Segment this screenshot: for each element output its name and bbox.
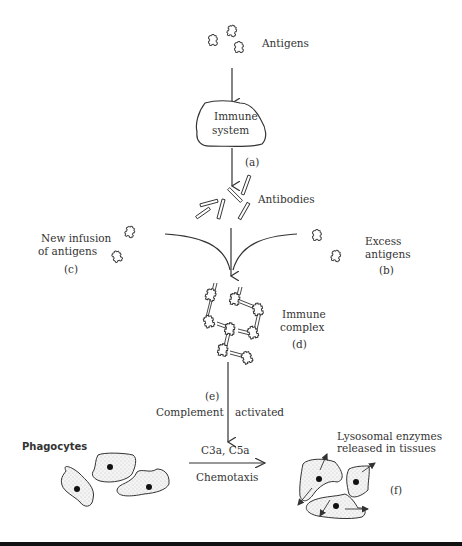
lysosomal-label-1: Lysosomal enzymes [337, 430, 442, 442]
lysosomal-release-group: Lysosomal enzymes released in tissues (f… [298, 430, 442, 519]
step-a-label: (a) [245, 156, 259, 168]
immune-complex-diagram: Antigens Immune system (a) Antibodies Ne… [0, 0, 462, 546]
lysosomal-label-2: released in tissues [337, 442, 436, 454]
antigen-icon [203, 314, 215, 328]
antigen-icon [252, 302, 264, 315]
antigens-group: Antigens [209, 24, 310, 52]
immune-complex-label-2: complex [280, 321, 324, 333]
converge-right-line [233, 234, 297, 270]
new-infusion-label-1: New infusion [41, 232, 112, 244]
excess-antigens-node: Excess antigens (b) [313, 230, 411, 277]
step-b-label: (b) [379, 264, 394, 276]
new-infusion-node: New infusion of antigens (c) [38, 225, 136, 275]
step-e-label: (e) [205, 390, 219, 402]
antigen-icon [209, 35, 218, 46]
immune-system-node: Immune system [196, 101, 265, 147]
complement-label: Complement [156, 406, 225, 418]
step-c-label: (c) [64, 263, 78, 275]
phagocytes-group: Phagocytes [22, 441, 169, 506]
phagocytes-label: Phagocytes [22, 441, 87, 452]
step-f-label: (f) [390, 484, 402, 496]
antigen-icon [240, 350, 253, 365]
antigen-icon [226, 24, 237, 37]
antigen-icon [330, 249, 341, 262]
antigen-icon [229, 292, 241, 305]
immune-system-label-2: system [212, 124, 249, 136]
phagocyte-cell [92, 453, 135, 482]
immune-complex-label-1: Immune [282, 308, 326, 320]
antigen-icon [124, 225, 136, 238]
antigen-icon [111, 250, 123, 263]
immune-system-label-1: Immune [214, 110, 258, 122]
excess-label-2: antigens [365, 248, 411, 260]
antibodies-group: Antibodies [196, 175, 315, 219]
immune-complex-node: Immune complex (d) [203, 283, 326, 365]
step-d-label: (d) [292, 338, 307, 350]
antigens-label: Antigens [261, 37, 309, 49]
converge-left-line [165, 234, 230, 270]
c3a-c5a-label: C3a, C5a [201, 444, 250, 456]
excess-label-1: Excess [365, 235, 401, 247]
antigen-icon [224, 322, 236, 335]
new-infusion-label-2: of antigens [38, 245, 97, 257]
bottom-border [0, 542, 462, 546]
antigen-icon [313, 230, 322, 241]
chemotaxis-label: Chemotaxis [196, 471, 258, 483]
antibodies-label: Antibodies [257, 193, 315, 205]
antigen-icon [235, 42, 244, 53]
activated-label: activated [235, 406, 284, 418]
